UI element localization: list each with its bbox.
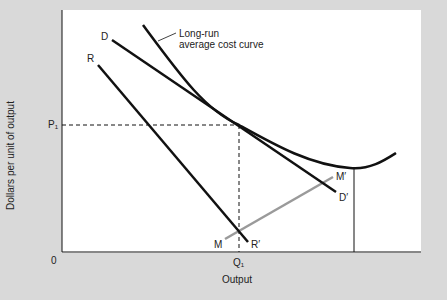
label-m-prime: M′: [336, 172, 346, 182]
label-m: M: [214, 240, 222, 250]
x-axis-label: Output: [222, 275, 252, 285]
origin-label: 0: [51, 256, 57, 266]
y-axis-label: Dollars per unit of output: [5, 101, 16, 210]
label-r-prime: R′: [251, 240, 260, 250]
label-d-prime: D′: [339, 193, 348, 203]
m-line: [225, 177, 333, 239]
r-line: [98, 65, 248, 242]
lrac-label-2: average cost curve: [179, 40, 264, 50]
label-d: D: [101, 32, 108, 42]
label-r: R: [87, 54, 94, 64]
x-tick-q1: Q₁: [233, 258, 244, 268]
y-tick-p1: P₁: [48, 120, 58, 130]
lrac-leader: [158, 33, 176, 41]
lrac-label-1: Long-run: [179, 29, 219, 39]
